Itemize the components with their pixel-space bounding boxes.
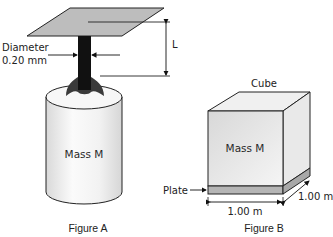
physics-diagram: Diameter 0.20 mm L Mass M Figure A Cube …	[0, 0, 333, 237]
cube-mass-label: Mass M	[226, 142, 265, 154]
cube-label: Cube	[251, 78, 277, 89]
plate-front	[208, 186, 283, 194]
figure-b-caption: Figure B	[244, 222, 284, 234]
figure-a-caption: Figure A	[68, 222, 107, 234]
depth-dimension-label: 1.00 m	[298, 191, 333, 202]
cylinder-mass-label: Mass M	[65, 148, 104, 160]
diameter-value: 0.20 mm	[2, 55, 47, 66]
wire-end	[78, 76, 91, 90]
figure-b: Cube Mass M Plate 1.00 m 1.00 m Figure B	[163, 78, 333, 234]
length-label: L	[172, 39, 178, 50]
figure-a: Diameter 0.20 mm L Mass M Figure A	[2, 8, 178, 234]
plate-label: Plate	[163, 185, 188, 196]
diameter-label: Diameter	[2, 42, 50, 53]
width-dimension-label: 1.00 m	[227, 206, 262, 217]
